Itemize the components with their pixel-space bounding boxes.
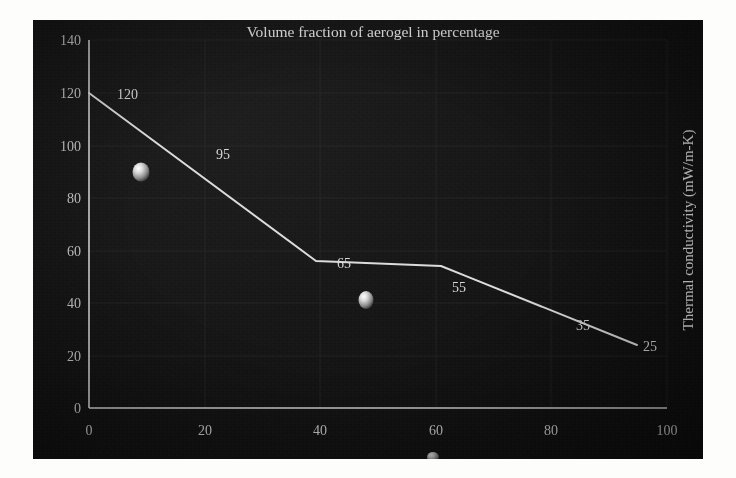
data-label-65: 65 xyxy=(337,256,351,271)
x-tick-60: 60 xyxy=(429,423,443,438)
y-tick-140: 140 xyxy=(60,33,81,48)
gridlines xyxy=(89,40,667,408)
x-tick-40: 40 xyxy=(313,423,327,438)
y-tick-60: 60 xyxy=(67,244,81,259)
y-axis-title: Thermal conductivity (mW/m-K) xyxy=(680,130,697,331)
chart-plot: 140 120 100 80 60 40 20 0 0 20 40 60 80 … xyxy=(33,20,703,459)
data-label-120: 120 xyxy=(117,87,138,102)
chart-figure: 140 120 100 80 60 40 20 0 0 20 40 60 80 … xyxy=(33,20,703,459)
data-label-25: 25 xyxy=(643,339,657,354)
data-label-55: 55 xyxy=(452,280,466,295)
data-label-35: 35 xyxy=(576,318,590,333)
x-axis-tick-labels: 0 20 40 60 80 100 xyxy=(86,423,678,438)
y-tick-20: 20 xyxy=(67,349,81,364)
x-tick-0: 0 xyxy=(86,423,93,438)
y-tick-100: 100 xyxy=(60,139,81,154)
data-label-95: 95 xyxy=(216,147,230,162)
x-tick-20: 20 xyxy=(198,423,212,438)
data-point-labels: 120 95 65 55 35 25 xyxy=(117,87,657,354)
page-root: 140 120 100 80 60 40 20 0 0 20 40 60 80 … xyxy=(0,0,736,478)
sphere-markers xyxy=(133,163,440,460)
y-tick-80: 80 xyxy=(67,191,81,206)
sphere-artifact-left-icon xyxy=(133,163,150,182)
chart-title: Volume fraction of aerogel in percentage xyxy=(246,23,499,40)
y-tick-120: 120 xyxy=(60,86,81,101)
y-tick-0: 0 xyxy=(74,401,81,416)
axes xyxy=(89,40,667,408)
y-tick-40: 40 xyxy=(67,296,81,311)
x-tick-80: 80 xyxy=(544,423,558,438)
y-axis-tick-labels: 140 120 100 80 60 40 20 0 xyxy=(60,33,81,416)
x-tick-100: 100 xyxy=(657,423,678,438)
sphere-artifact-mid-icon xyxy=(359,291,374,309)
sphere-artifact-bottom-icon xyxy=(427,452,439,459)
